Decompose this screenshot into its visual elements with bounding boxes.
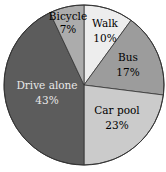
drive-alone-label: Drive alone	[16, 79, 77, 91]
bus-value: 17%	[116, 66, 139, 78]
bicycle-value: 7%	[60, 23, 77, 35]
bicycle-label: Bicycle	[49, 10, 87, 22]
pie-chart: Walk 10% Bus 17% Car pool 23% Drive alon…	[0, 0, 166, 172]
bus-label: Bus	[118, 51, 138, 63]
walk-label: Walk	[92, 17, 118, 29]
carpool-label: Car pool	[94, 104, 140, 116]
walk-value: 10%	[93, 32, 116, 44]
drive-alone-value: 43%	[35, 94, 58, 106]
carpool-value: 23%	[105, 119, 128, 131]
